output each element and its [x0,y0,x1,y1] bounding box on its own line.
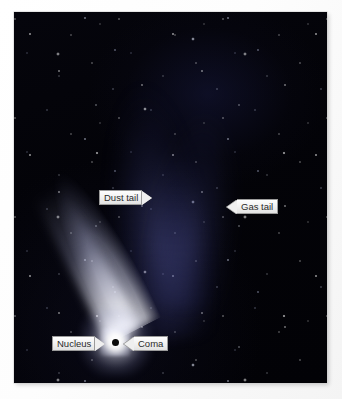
callout-text-gas-tail: Gas tail [237,199,278,214]
callout-text-dust-tail: Dust tail [99,190,142,205]
page-background: Dust tail Gas tail Nucleus Coma [0,0,342,399]
arrow-right-icon [142,191,152,205]
comet-photograph: Dust tail Gas tail Nucleus Coma [14,12,327,383]
callout-text-nucleus: Nucleus [52,336,95,351]
arrow-right-icon [95,337,105,351]
callout-text-coma: Coma [134,336,168,351]
callout-label-coma: Coma [124,336,168,351]
arrow-left-icon [227,200,237,214]
callout-label-dust-tail: Dust tail [99,190,152,205]
arrow-left-icon [124,337,134,351]
callout-label-nucleus: Nucleus [52,336,105,351]
callout-label-gas-tail: Gas tail [227,199,278,214]
night-sky-background [14,12,327,383]
